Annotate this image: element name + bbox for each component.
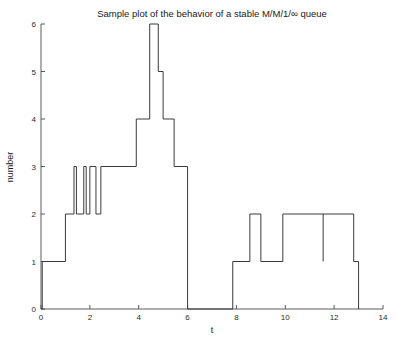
figure-canvas: Sample plot of the behavior of a stable … xyxy=(0,0,405,346)
y-tick-label-4: 4 xyxy=(32,115,37,124)
x-tick-label-10: 10 xyxy=(281,313,290,322)
chart-title: Sample plot of the behavior of a stable … xyxy=(97,8,327,19)
x-tick-label-2: 2 xyxy=(88,313,93,322)
x-tick-label-6: 6 xyxy=(185,313,190,322)
x-tick-label-0: 0 xyxy=(39,313,44,322)
y-tick-label-2: 2 xyxy=(32,210,37,219)
x-tick-label-12: 12 xyxy=(330,313,339,322)
x-axis-tick-labels: 0 2 4 6 8 10 12 14 xyxy=(39,313,388,322)
step-plot-chart: Sample plot of the behavior of a stable … xyxy=(0,0,405,346)
x-tick-label-8: 8 xyxy=(234,313,239,322)
y-axis-label: number xyxy=(5,152,15,183)
y-axis-tick-labels: 0 1 2 3 4 5 6 xyxy=(32,20,37,314)
x-axis-label: t xyxy=(211,325,214,335)
y-tick-label-6: 6 xyxy=(32,20,37,29)
y-tick-label-0: 0 xyxy=(32,305,37,314)
y-tick-label-1: 1 xyxy=(32,258,37,267)
x-tick-label-4: 4 xyxy=(136,313,141,322)
x-tick-label-14: 14 xyxy=(379,313,388,322)
y-tick-label-5: 5 xyxy=(32,68,37,77)
queue-length-step-line xyxy=(41,24,359,309)
y-axis-ticks xyxy=(41,24,45,309)
y-tick-label-3: 3 xyxy=(32,163,37,172)
x-axis-ticks xyxy=(41,305,383,309)
